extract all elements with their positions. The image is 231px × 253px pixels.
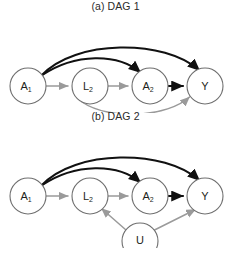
node-a1: A1 [10, 178, 46, 214]
edge-u-to-l2 [102, 209, 127, 231]
dag-1-canvas: A1 L2 A2 Y [0, 13, 231, 113]
node-l2: L2 [72, 178, 108, 214]
dag-1-edges [42, 47, 200, 113]
dag-2-canvas: A1 L2 A2 Y U [0, 123, 231, 248]
dag-2-edges [42, 157, 200, 230]
node-a2: A2 [132, 178, 168, 214]
node-y-label: Y [201, 80, 209, 92]
panel-b-title: (b) DAG 2 [0, 110, 231, 123]
dag-2-nodes: A1 L2 A2 Y U [10, 178, 223, 248]
panel-a-title: (a) DAG 1 [0, 0, 231, 13]
node-u-label: U [136, 234, 144, 246]
node-a2: A2 [132, 68, 168, 104]
node-y: Y [187, 178, 223, 214]
node-y-label: Y [201, 190, 209, 202]
edge-u-to-y [155, 210, 196, 231]
panel-dag-1: (a) DAG 1 [0, 0, 231, 118]
node-l2: L2 [72, 68, 108, 104]
node-a1: A1 [10, 68, 46, 104]
dag-figure: (a) DAG 1 [0, 0, 231, 253]
node-y: Y [187, 68, 223, 104]
node-u: U [122, 223, 158, 248]
panel-dag-2: (b) DAG 2 [0, 110, 231, 253]
